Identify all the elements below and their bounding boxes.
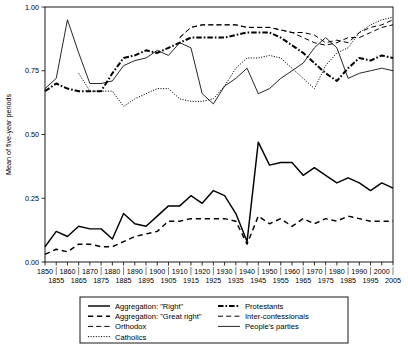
x-tick-label-lower: 1935 (228, 276, 244, 285)
legend-label-4: Protestants (245, 302, 284, 311)
y-tick-label: 0.75 (25, 66, 39, 75)
x-tick-label-upper: 1970 (306, 267, 322, 276)
x-tick-label-lower: 1875 (93, 276, 109, 285)
x-tick-label-upper: 1990 (351, 267, 367, 276)
x-tick-label-lower: 1905 (160, 276, 176, 285)
legend-label-1: Aggregation: "Great right" (115, 312, 202, 321)
x-tick-label-upper: 1960 (284, 267, 300, 276)
x-tick-label-lower: 1985 (340, 276, 356, 285)
x-tick-label-lower: 1925 (205, 276, 221, 285)
x-tick-label-upper: 1950 (262, 267, 278, 276)
y-axis-label: Mean of five-year periods (4, 94, 13, 176)
x-tick-label-upper: 1880 (104, 267, 120, 276)
y-tick-label: 0.50 (25, 130, 39, 139)
x-tick-label-upper: 1860 (59, 267, 75, 276)
legend-label-6: People's parties (245, 322, 299, 331)
y-axis-title: Mean of five-year periods (4, 94, 13, 176)
x-tick-label-upper: 1930 (217, 267, 233, 276)
x-tick-label-lower: 1895 (138, 276, 154, 285)
legend-label-5: Inter-confessionals (245, 312, 309, 321)
x-tick-label-lower: 2005 (385, 276, 401, 285)
y-tick-label: 0.25 (25, 194, 39, 203)
x-tick-label-upper: 1940 (239, 267, 255, 276)
x-tick-label-upper: 1900 (149, 267, 165, 276)
x-tick-label-lower: 1865 (71, 276, 87, 285)
x-tick-label-lower: 1885 (116, 276, 132, 285)
x-tick-label-upper: 1870 (82, 267, 98, 276)
x-tick-label-lower: 1915 (183, 276, 199, 285)
x-tick-label-upper: 1910 (172, 267, 188, 276)
x-tick-label-upper: 1980 (329, 267, 345, 276)
legend-label-3: Catholics (115, 333, 146, 342)
x-tick-label-lower: 1855 (48, 276, 64, 285)
x-tick-label-upper: 1920 (194, 267, 210, 276)
x-tick-label-lower: 1995 (363, 276, 379, 285)
x-tick-label-upper: 2000 (374, 267, 390, 276)
x-tick-label-upper: 1850 (37, 267, 53, 276)
chart-figure: Mean of five-year periods 0.000.250.500.… (0, 0, 408, 348)
x-tick-label-lower: 1945 (250, 276, 266, 285)
y-tick-label: 0.00 (25, 258, 39, 267)
x-tick-label-lower: 1955 (273, 276, 289, 285)
x-tick-label-upper: 1890 (127, 267, 143, 276)
x-tick-label-lower: 1965 (295, 276, 311, 285)
legend-label-2: Orthodox (115, 322, 146, 331)
legend-label-0: Aggregation: "Right" (115, 302, 184, 311)
y-tick-label: 1.00 (25, 3, 39, 12)
x-tick-label-lower: 1975 (318, 276, 334, 285)
